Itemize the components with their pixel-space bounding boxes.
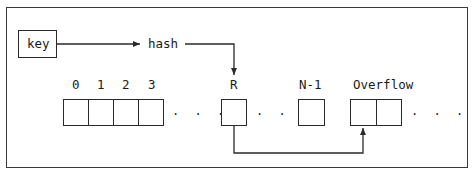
hash-to-bucket-arrow xyxy=(185,44,234,75)
bucket-n-minus-1 xyxy=(298,99,325,126)
ellipsis-3: . . . xyxy=(411,106,467,116)
key-box: key xyxy=(18,30,57,58)
bucket-2 xyxy=(113,99,139,126)
bucket-index-2: 2 xyxy=(122,78,130,92)
bucket-index-3: 3 xyxy=(148,78,156,92)
bucket-r xyxy=(221,99,247,126)
overflow-cell-1 xyxy=(350,99,377,126)
bucket-0 xyxy=(63,99,89,126)
bucket-to-overflow-arrow xyxy=(234,126,363,153)
bucket-index-0: 0 xyxy=(72,78,80,92)
ellipsis-1: . . . xyxy=(172,106,228,116)
bucket-3 xyxy=(138,99,164,126)
hash-label: hash xyxy=(148,37,178,51)
overflow-label: Overflow xyxy=(353,78,413,92)
overflow-cell-2 xyxy=(376,99,402,126)
key-label: key xyxy=(27,37,50,51)
bucket-1 xyxy=(88,99,114,126)
bucket-index-n-minus-1: N-1 xyxy=(299,78,322,92)
bucket-index-r: R xyxy=(230,78,238,92)
bucket-index-1: 1 xyxy=(97,78,105,92)
